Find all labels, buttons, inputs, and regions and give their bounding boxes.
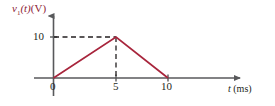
y-axis-label: v1(t)(V) <box>12 3 46 17</box>
x-tick-label-10: 10 <box>161 81 172 92</box>
waveform-curve <box>54 37 169 78</box>
y-axis-label-unit: (V) <box>31 2 46 14</box>
x-tick-label-5: 5 <box>113 81 119 92</box>
x-tick-label-0: 0 <box>50 81 56 92</box>
waveform-figure: v1(t)(V) t (ms) 10 0 5 10 <box>0 0 275 106</box>
y-axis-label-arg: (t) <box>20 2 30 14</box>
x-axis-label-unit: (ms) <box>231 83 252 94</box>
y-tick-label-10: 10 <box>33 31 44 42</box>
x-axis-label: t (ms) <box>228 84 252 94</box>
